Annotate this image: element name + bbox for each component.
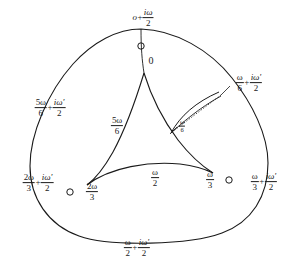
boundary-label-upper-left-num1: 5ω <box>35 98 47 108</box>
boundary-label-lower-right: ω3+iω'2 <box>251 172 277 192</box>
interior-label-omega-two-num: ω <box>151 168 159 178</box>
boundary-label-lower-right-den1: 3 <box>251 183 259 192</box>
marker-bottom-left-icon <box>67 189 73 195</box>
boundary-label-lower-left-num1: 2ω <box>23 173 35 183</box>
interior-label-two-omega-three-den: 3 <box>86 193 98 202</box>
boundary-label-upper-left: 5ω6+iω'2 <box>35 98 66 118</box>
boundary-label-bottom-num2: iω' <box>138 238 150 248</box>
interior-label-two-omega-three: 2ω3 <box>86 182 98 202</box>
interior-label-five-omega-six: 5ω6 <box>111 116 123 136</box>
boundary-label-bottom: ω2+iω'2 <box>124 238 150 258</box>
boundary-label-upper-right-frac2: iω'2 <box>250 73 262 93</box>
boundary-label-lower-right-num1: ω <box>251 172 259 182</box>
boundary-label-lower-right-frac2: iω'2 <box>265 172 277 192</box>
boundary-label-upper-left-den1: 6 <box>35 109 47 118</box>
boundary-label-lower-right-den2: 2 <box>265 183 277 192</box>
boundary-label-top-frac: iω2 <box>143 8 154 28</box>
interior-label-omega-three-num: ω <box>206 170 214 180</box>
marker-bottom-right-icon <box>226 177 232 183</box>
boundary-label-upper-right-den1: 6 <box>236 84 244 93</box>
boundary-label-bottom-den1: 2 <box>124 249 132 258</box>
boundary-label-lower-left-num2: iω' <box>41 173 53 183</box>
boundary-label-upper-right-frac1: ω6 <box>236 73 244 93</box>
interior-label-omega-three: ω3 <box>206 170 214 190</box>
boundary-label-upper-left-frac2: iω'2 <box>53 98 65 118</box>
interior-label-origin: 0 <box>149 56 154 66</box>
boundary-label-bottom-frac2: iω'2 <box>138 238 150 258</box>
boundary-label-upper-left-frac1: 5ω6 <box>35 98 47 118</box>
boundary-label-lower-left: 2ω3+iω'2 <box>23 173 54 193</box>
interior-label-five-omega-six-frac: 5ω6 <box>111 116 123 136</box>
boundary-label-lower-left-frac2: iω'2 <box>41 173 53 193</box>
interior-label-omega-three-den: 3 <box>206 181 214 190</box>
inner-arc-bottom <box>87 163 213 185</box>
boundary-label-lower-left-frac1: 2ω3 <box>23 173 35 193</box>
boundary-label-bottom-frac1: ω2 <box>124 238 132 258</box>
interior-label-five-omega-six-num: 5ω <box>111 116 123 126</box>
interior-label-omega-six: ω6 <box>179 119 185 134</box>
boundary-label-upper-right-den2: 2 <box>250 84 262 93</box>
interior-label-two-omega-three-num: 2ω <box>86 182 98 192</box>
boundary-label-bottom-num1: ω <box>124 238 132 248</box>
boundary-label-upper-right-num2: iω' <box>250 73 262 83</box>
upper-right-tick <box>221 86 230 95</box>
boundary-label-bottom-den2: 2 <box>138 249 150 258</box>
boundary-label-top-num: iω <box>143 8 154 18</box>
interior-label-omega-two: ω2 <box>151 168 159 188</box>
interior-label-omega-three-frac: ω3 <box>206 170 214 190</box>
boundary-label-top: o+iω2 <box>132 8 153 28</box>
boundary-label-upper-right: ω6+iω'2 <box>236 73 262 93</box>
boundary-label-lower-left-den2: 2 <box>41 184 53 193</box>
interior-label-omega-six-den: 6 <box>179 127 185 134</box>
boundary-label-lower-left-den1: 3 <box>23 184 35 193</box>
interior-label-omega-six-frac: ω6 <box>179 119 185 134</box>
boundary-label-lower-right-frac1: ω3 <box>251 172 259 192</box>
boundary-label-lower-right-num2: iω' <box>265 172 277 182</box>
fundamental-domain-figure <box>0 0 298 268</box>
interior-label-omega-two-den: 2 <box>151 179 159 188</box>
boundary-label-upper-right-num1: ω <box>236 73 244 83</box>
boundary-label-upper-left-num2: iω' <box>53 98 65 108</box>
interior-label-five-omega-six-den: 6 <box>111 127 123 136</box>
boundary-label-top-den: 2 <box>143 19 154 28</box>
boundary-label-upper-left-den2: 2 <box>53 109 65 118</box>
interior-label-omega-two-frac: ω2 <box>151 168 159 188</box>
cusp-connector-top <box>141 29 144 73</box>
interior-label-two-omega-three-frac: 2ω3 <box>86 182 98 202</box>
